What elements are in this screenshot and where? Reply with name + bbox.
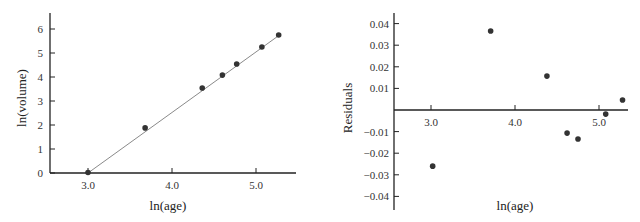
right-y-axis-label: Residuals: [340, 83, 355, 134]
right-x-tick-label: 4.0: [508, 116, 522, 128]
right-y-tick-label: 0.03: [370, 39, 390, 51]
residual-point: [544, 73, 550, 79]
right-x-axis-label: ln(age): [497, 198, 534, 213]
left-y-tick-label: 1: [38, 143, 44, 155]
right-y-tick-label: 0.02: [370, 61, 389, 73]
left-y-axis-label: ln(volume): [14, 69, 29, 127]
left-x-tick-label: 5.0: [249, 179, 263, 191]
residual-point: [575, 136, 581, 142]
residual-point: [488, 28, 494, 34]
residual-point: [430, 163, 436, 169]
data-point: [234, 61, 240, 67]
right-x-tick-label: 3.0: [424, 116, 438, 128]
left-x-tick-label: 3.0: [81, 179, 95, 191]
data-point: [199, 85, 205, 91]
left-y-tick-label: 2: [38, 119, 44, 131]
left-x-axis-label: ln(age): [150, 198, 187, 213]
data-point: [276, 32, 282, 38]
residual-point: [620, 97, 626, 103]
residuals-scatter-chart: 0.040.030.020.01−0.01−0.02−0.03−0.04 3.0…: [340, 13, 628, 213]
data-point: [259, 44, 265, 50]
data-point: [85, 170, 91, 176]
right-y-tick-label: 0.04: [370, 18, 390, 30]
figure: 0123456 3.04.05.0 ln(age) ln(volume) 0.0…: [0, 0, 640, 222]
right-y-tick-label: 0.01: [370, 82, 389, 94]
regression-line: [88, 35, 280, 173]
left-y-tick-label: 6: [38, 23, 44, 35]
left-y-tick-label: 4: [38, 71, 44, 83]
left-x-tick-label: 4.0: [165, 179, 179, 191]
data-point: [220, 72, 226, 78]
right-y-tick-label: −0.01: [364, 126, 389, 138]
left-scatter-chart: 0123456 3.04.05.0 ln(age) ln(volume): [14, 13, 296, 213]
right-x-tick-label: 5.0: [592, 116, 606, 128]
left-y-tick-label: 5: [38, 47, 44, 59]
residual-point: [564, 130, 570, 136]
left-y-tick-label: 3: [38, 95, 44, 107]
right-y-tick-label: −0.03: [364, 169, 390, 181]
left-y-tick-label: 0: [38, 167, 44, 179]
right-y-tick-label: −0.02: [364, 147, 389, 159]
data-point: [142, 125, 148, 131]
right-y-tick-label: −0.04: [364, 190, 390, 202]
residual-point: [603, 111, 609, 117]
